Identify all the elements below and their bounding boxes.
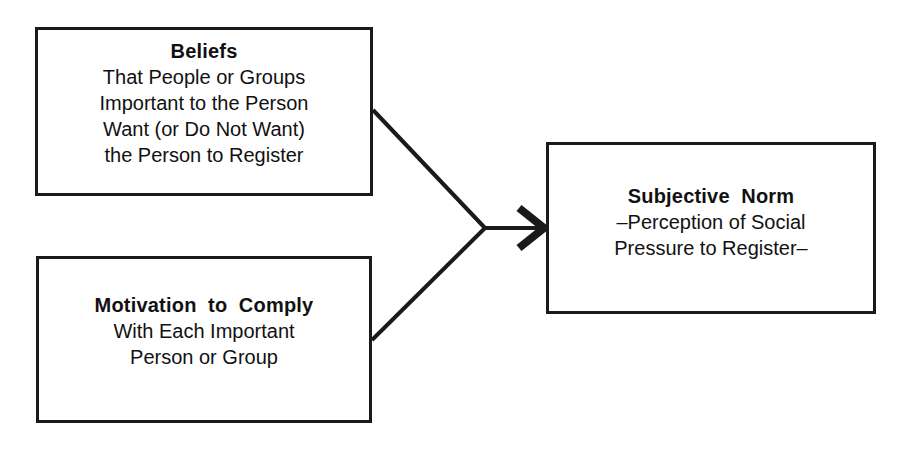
node-subjective-norm[interactable]: Subjective Norm –Perception of Social Pr… bbox=[546, 142, 876, 314]
node-motivation-line-2: Person or Group bbox=[130, 344, 278, 370]
connector-beliefs-to-junction bbox=[373, 110, 485, 228]
node-motivation-line-1: With Each Important bbox=[113, 318, 294, 344]
node-subjective-norm-line-2: Pressure to Register– bbox=[614, 235, 807, 261]
node-beliefs[interactable]: Beliefs That People or Groups Important … bbox=[35, 27, 373, 196]
node-beliefs-title: Beliefs bbox=[171, 38, 238, 64]
diagram-title: Subjective Norm Determinants bbox=[0, 21, 1, 22]
node-motivation-title: Motivation to Comply bbox=[95, 292, 314, 318]
node-beliefs-line-4: the Person to Register bbox=[105, 142, 304, 168]
node-beliefs-line-1: That People or Groups bbox=[103, 64, 305, 90]
arrowhead-icon bbox=[519, 208, 544, 248]
node-subjective-norm-title: Subjective Norm bbox=[628, 183, 795, 209]
node-subjective-norm-line-1: –Perception of Social bbox=[616, 209, 805, 235]
diagram-canvas: Subjective Norm Determinants Beliefs Tha… bbox=[0, 0, 911, 456]
node-beliefs-line-3: Want (or Do Not Want) bbox=[103, 116, 305, 142]
node-motivation-to-comply[interactable]: Motivation to Comply With Each Important… bbox=[36, 256, 372, 423]
connector-motivation-to-junction bbox=[372, 228, 485, 340]
node-beliefs-line-2: Important to the Person bbox=[99, 90, 308, 116]
